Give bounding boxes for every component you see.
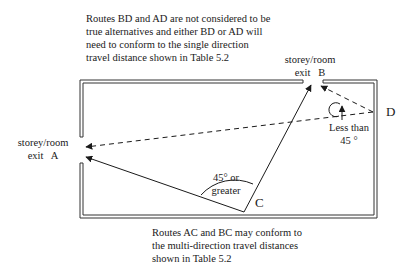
angle-arc-small — [329, 103, 340, 117]
top-note: Routes BD and AD are not considered to b… — [86, 12, 270, 64]
point-c-label: C — [255, 196, 264, 209]
top-note-line: true alternatives and either BD or AD wi… — [86, 25, 270, 38]
exit-a-label: storey/room exit A — [12, 136, 74, 162]
bottom-note: Routes AC and BC may conform to the mult… — [152, 226, 302, 265]
exit-b-label: storey/room exit B — [280, 53, 340, 79]
angle-large-label: 45° or greater — [204, 171, 248, 197]
bottom-note-line: Routes AC and BC may conform to — [152, 226, 302, 239]
top-note-line: need to conform to the single direction — [86, 38, 270, 51]
multi-direction-routes — [86, 85, 311, 212]
bottom-note-line: the multi-direction travel distances — [152, 239, 302, 252]
room-walls — [80, 80, 377, 218]
bottom-note-line: shown in Table 5.2 — [152, 252, 302, 265]
route-cb — [244, 85, 311, 212]
angle-small-label: Less than 45 ° — [324, 121, 374, 147]
wall-top-left — [80, 80, 303, 137]
point-d-label: D — [386, 105, 395, 118]
wall-top-right — [80, 80, 377, 218]
top-note-line: travel distance shown in Table 5.2 — [86, 51, 270, 64]
top-note-line: Routes BD and AD are not considered to b… — [86, 12, 270, 25]
